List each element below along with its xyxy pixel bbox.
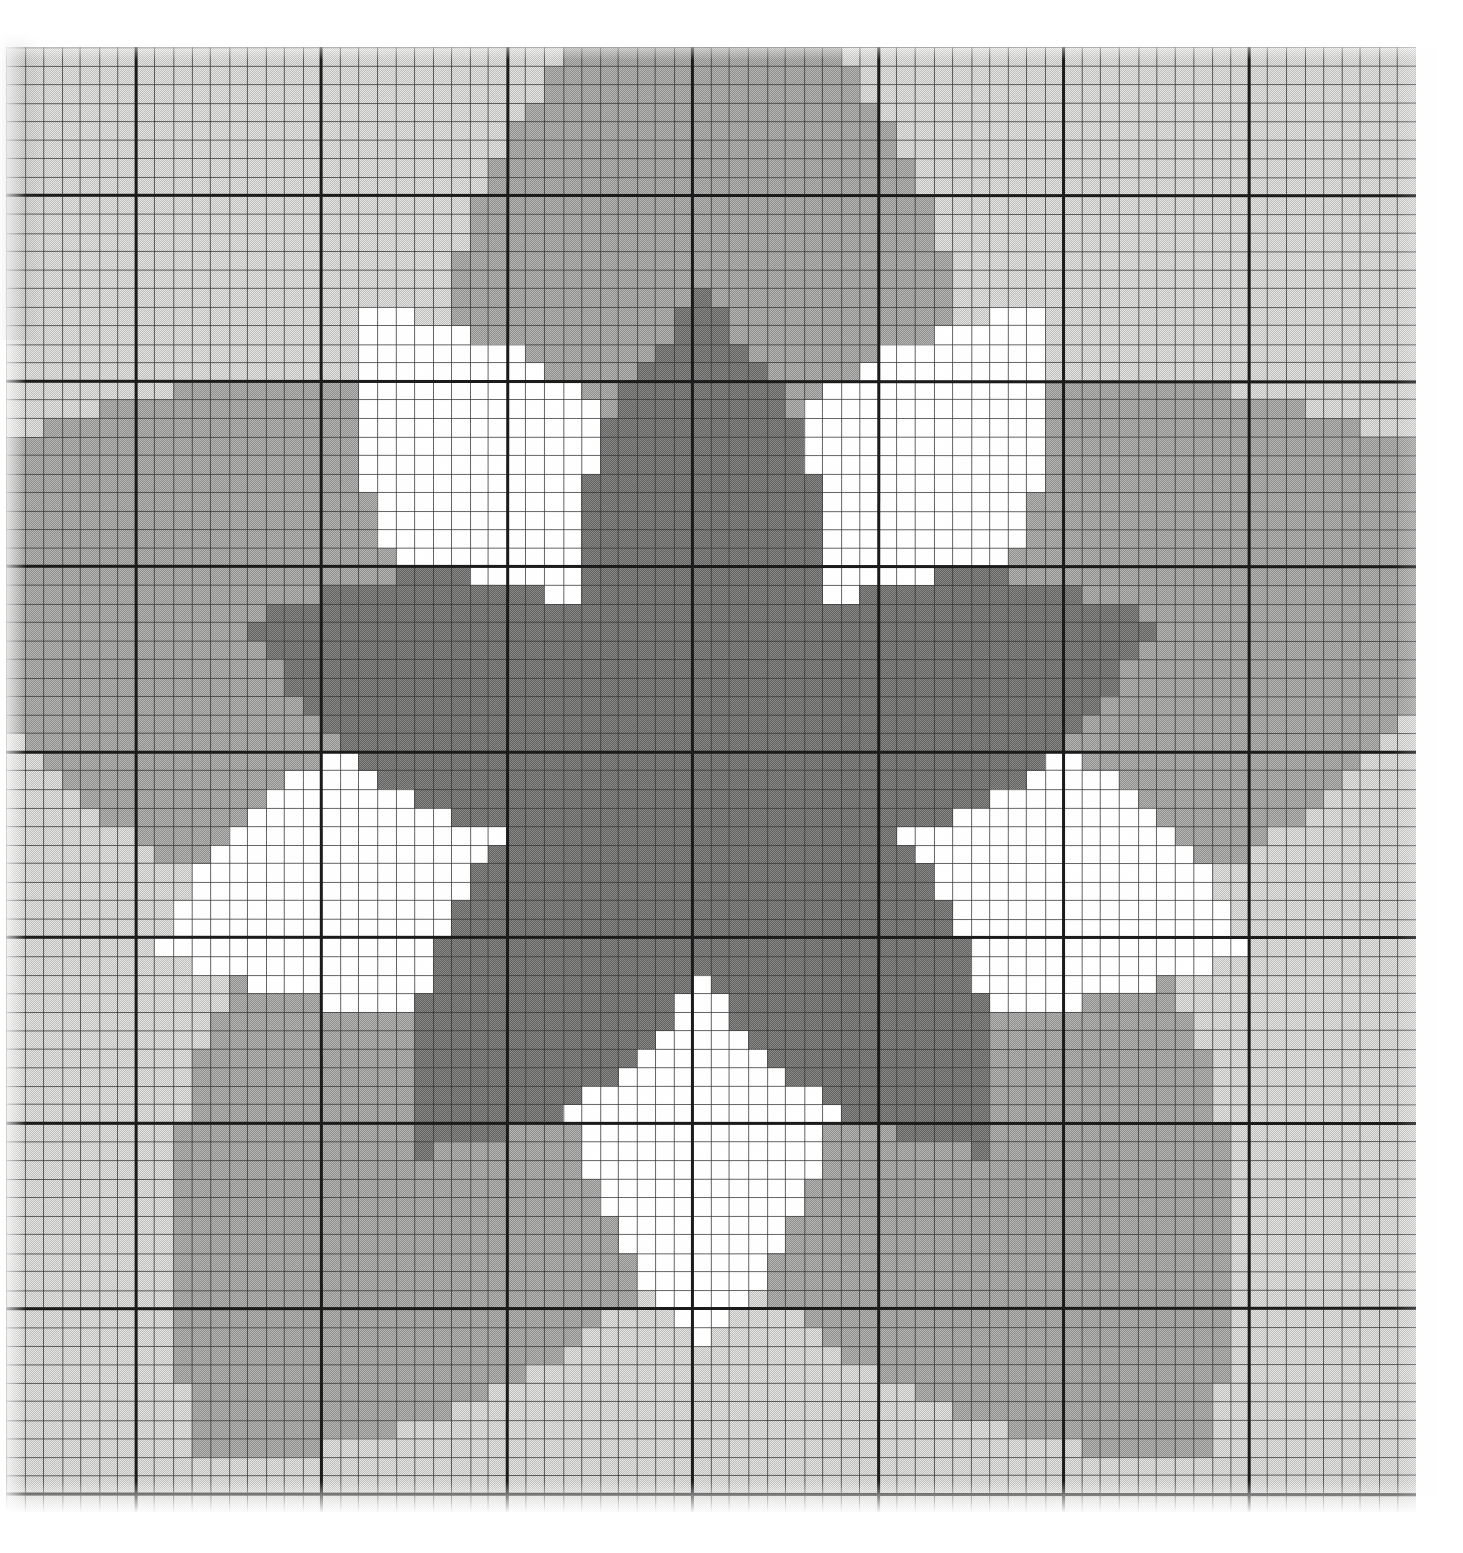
pattern-chart-page — [0, 0, 1463, 1553]
pattern-cells-layer — [6, 47, 1416, 1512]
chart-grid-area — [6, 47, 1416, 1512]
